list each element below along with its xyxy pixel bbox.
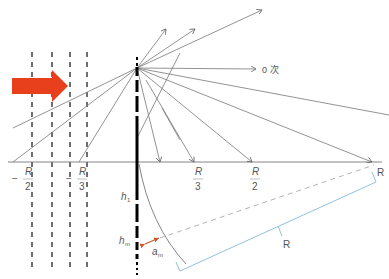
svg-text:m: m	[158, 252, 163, 258]
label-neg-r-over-2: − R 2	[12, 166, 33, 192]
wavefront-arc	[139, 164, 186, 264]
ray-to-r-half	[137, 68, 252, 162]
svg-text:2: 2	[25, 181, 31, 192]
svg-text:−: −	[66, 173, 72, 184]
svg-text:R: R	[252, 166, 259, 177]
hm-label: h m	[119, 235, 130, 247]
svg-text:2: 2	[252, 181, 258, 192]
r-bracket-label: R	[283, 239, 290, 250]
ray-zero-order	[137, 68, 256, 69]
h1-label: h 1	[121, 191, 131, 203]
svg-text:R: R	[25, 166, 32, 177]
ray-long-right	[137, 68, 389, 115]
svg-text:3: 3	[195, 181, 201, 192]
label-r-over-2: R 2	[250, 166, 260, 192]
svg-text:1: 1	[127, 197, 131, 203]
radius-bracket	[176, 172, 376, 271]
label-neg-r-over-3: − R 3	[66, 166, 87, 192]
svg-text:R: R	[195, 166, 202, 177]
svg-text:m: m	[125, 241, 130, 247]
am-label: a m	[152, 246, 163, 258]
svg-text:R: R	[79, 166, 86, 177]
ray-up-2	[137, 29, 195, 68]
ray-up-1	[137, 29, 166, 68]
svg-text:3: 3	[79, 181, 85, 192]
zone-plate-diagram: 0 次 − R 2 − R 3 R 3 R 2 R R h 1 h m a m	[0, 0, 389, 279]
label-r-over-3: R 3	[193, 166, 203, 192]
radius-dashed-line	[160, 165, 374, 238]
ray-to-r-over-2	[146, 80, 194, 162]
incident-light-arrow-icon	[12, 70, 68, 102]
svg-text:−: −	[12, 173, 18, 184]
zero-order-label: 0 次	[262, 64, 279, 75]
r-axis-label: R	[377, 167, 384, 178]
ray-segment	[162, 108, 180, 140]
am-double-arrow	[145, 238, 159, 244]
ray-to-r	[137, 68, 372, 162]
ray-up-3	[137, 10, 262, 68]
